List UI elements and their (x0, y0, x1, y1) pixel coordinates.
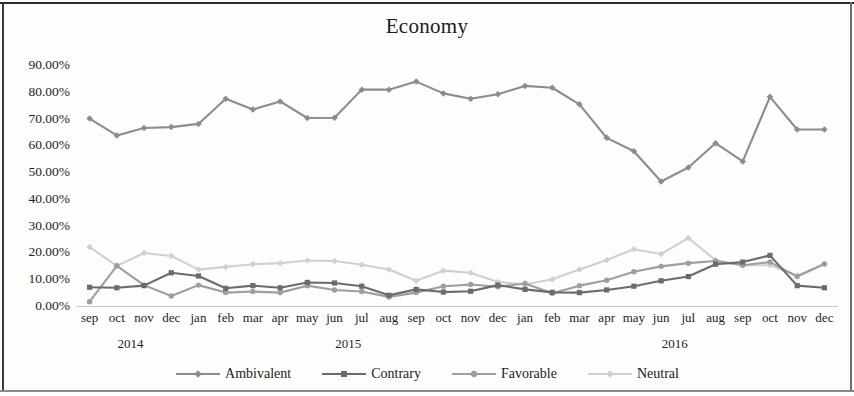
x-axis-tick-label: sep (408, 310, 425, 326)
data-point-marker (603, 257, 610, 264)
legend-key-ambivalent (175, 368, 221, 380)
data-point-marker (141, 250, 148, 256)
data-point-marker (794, 274, 799, 279)
data-point-marker (631, 269, 636, 274)
data-point-marker (604, 278, 609, 283)
y-axis-tick-label: 60.00% (0, 137, 70, 153)
figure-border-right (850, 2, 852, 392)
data-point-marker (331, 258, 338, 265)
data-point-marker (767, 259, 772, 264)
x-axis-tick-label: jul (681, 310, 695, 326)
data-point-marker (495, 91, 502, 98)
data-point-marker (359, 262, 366, 269)
data-point-marker (440, 267, 447, 274)
y-axis-tick-label: 50.00% (0, 164, 70, 180)
legend-item-ambivalent[interactable]: Ambivalent (175, 366, 291, 382)
data-point-marker (305, 280, 310, 285)
data-point-marker (87, 285, 92, 290)
y-axis-tick-label: 90.00% (0, 57, 70, 73)
data-point-marker (631, 284, 636, 289)
y-axis-tick-label: 0.00% (0, 298, 70, 314)
data-point-marker (631, 246, 638, 253)
data-point-marker (250, 289, 255, 294)
data-point-marker (440, 90, 447, 97)
x-axis-tick-label: mar (243, 310, 263, 326)
data-point-marker (577, 290, 582, 295)
data-point-marker (277, 290, 282, 295)
data-point-marker (522, 287, 527, 292)
data-point-marker (471, 371, 477, 377)
data-point-marker (467, 95, 474, 102)
x-axis-tick-label: feb (217, 310, 234, 326)
data-point-marker (767, 253, 772, 258)
data-point-marker (250, 261, 257, 268)
y-axis-tick-label: 20.00% (0, 244, 70, 260)
data-point-marker (413, 78, 420, 85)
data-point-marker (169, 293, 174, 298)
data-point-marker (713, 262, 718, 267)
data-point-marker (659, 278, 664, 283)
data-point-marker (822, 261, 827, 266)
x-axis-tick-label: nov (134, 310, 154, 326)
data-point-marker (386, 293, 391, 298)
x-axis-tick-label: apr (272, 310, 289, 326)
y-axis-tick-label: 40.00% (0, 191, 70, 207)
data-point-marker (359, 284, 364, 289)
series-ambivalent (86, 78, 827, 184)
data-point-marker (468, 289, 473, 294)
legend-label: Favorable (501, 366, 557, 382)
chart-figure: Economy 0.00%10.00%20.00%30.00%40.00%50.… (0, 0, 854, 396)
data-point-marker (278, 285, 283, 290)
data-point-marker (606, 370, 614, 378)
data-point-marker (196, 282, 201, 287)
series-line (90, 82, 825, 182)
x-axis-tick-label: oct (762, 310, 778, 326)
data-point-marker (304, 257, 311, 264)
data-point-marker (822, 285, 827, 290)
data-point-marker (114, 285, 119, 290)
x-axis-tick-label: nov (787, 310, 807, 326)
data-point-marker (658, 264, 663, 269)
legend-key-favorable (451, 368, 497, 380)
x-axis-tick-label: nov (461, 310, 481, 326)
x-axis-line (76, 306, 838, 307)
x-axis-tick-label: mar (569, 310, 589, 326)
data-point-marker (604, 287, 609, 292)
data-point-marker (87, 299, 92, 304)
x-axis-tick-label: jun (653, 310, 670, 326)
data-point-marker (250, 283, 255, 288)
legend-item-favorable[interactable]: Favorable (451, 366, 557, 382)
data-point-marker (550, 290, 555, 295)
data-point-marker (168, 124, 175, 131)
data-point-marker (222, 264, 229, 271)
data-point-marker (114, 263, 119, 268)
data-point-marker (386, 86, 393, 93)
x-axis-year-labels: 201420152016 (76, 336, 838, 356)
x-axis-year-label: 2016 (662, 336, 688, 352)
data-point-marker (468, 282, 473, 287)
data-point-marker (277, 260, 284, 267)
y-axis-tick-label: 30.00% (0, 218, 70, 234)
x-axis-tick-label: apr (598, 310, 615, 326)
data-point-marker (522, 83, 529, 90)
data-point-marker (341, 371, 347, 377)
data-point-marker (441, 283, 446, 288)
x-axis-tick-label: may (623, 310, 645, 326)
x-axis-tick-label: aug (706, 310, 725, 326)
x-axis-tick-label: dec (162, 310, 180, 326)
x-axis-year-label: 2014 (117, 336, 143, 352)
y-axis: 0.00%10.00%20.00%30.00%40.00%50.00%60.00… (0, 0, 70, 396)
data-point-marker (386, 266, 393, 273)
x-axis-tick-labels: sepoctnovdecjanfebmaraprmayjunjulaugsepo… (76, 310, 838, 330)
data-point-marker (549, 276, 556, 283)
legend-item-neutral[interactable]: Neutral (587, 366, 679, 382)
data-point-marker (495, 283, 500, 288)
data-point-marker (467, 270, 474, 277)
x-axis-tick-label: aug (380, 310, 399, 326)
legend-label: Contrary (371, 366, 421, 382)
data-point-marker (196, 273, 201, 278)
x-axis-tick-label: oct (109, 310, 125, 326)
x-axis-tick-label: jan (517, 310, 533, 326)
legend-item-contrary[interactable]: Contrary (321, 366, 421, 382)
figure-border-bottom (0, 390, 854, 392)
